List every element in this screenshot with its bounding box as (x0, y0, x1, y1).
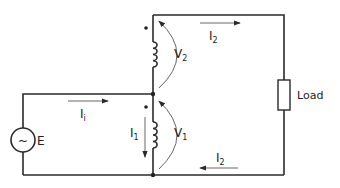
label-v1: V1 (174, 126, 187, 142)
ac-source-symbol: ~ (18, 134, 28, 148)
label-i1: I1 (130, 126, 139, 142)
winding2-polarity-dot-icon (144, 26, 148, 30)
winding1-coil-icon (153, 122, 157, 148)
load-resistor-icon (278, 80, 290, 110)
input-wire (23, 94, 153, 128)
label-v2: V2 (174, 47, 187, 63)
junction-bottom-icon (151, 173, 155, 177)
source-label-e: E (37, 134, 45, 148)
winding1-polarity-dot-icon (144, 105, 148, 109)
label-i2-top: I2 (209, 29, 218, 45)
ac-source: ~ E (11, 128, 45, 152)
load: Load (278, 80, 323, 110)
winding2-coil-icon (153, 42, 157, 67)
junction-middle-icon (151, 92, 155, 96)
autotransformer-circuit-diagram: ~ E Load I2 I2 Ii I1 V2 V1 (0, 0, 340, 188)
label-i2-bottom: I2 (216, 151, 225, 167)
label-ii: Ii (80, 107, 86, 123)
load-label: Load (297, 89, 323, 102)
